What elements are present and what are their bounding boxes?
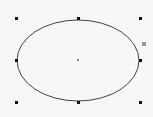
resize-handle-middle-left[interactable] [15, 59, 18, 62]
center-point [77, 59, 79, 61]
resize-handle-bottom-right[interactable] [139, 101, 142, 104]
resize-handle-bottom-center[interactable] [77, 101, 80, 104]
resize-handle-middle-right[interactable] [139, 59, 142, 62]
resize-handle-bottom-left[interactable] [15, 101, 18, 104]
resize-handle-top-right[interactable] [139, 17, 142, 20]
resize-handle-top-left[interactable] [15, 17, 18, 20]
rotate-handle-icon[interactable] [142, 42, 146, 46]
drawing-canvas[interactable] [0, 0, 153, 117]
resize-handle-top-center[interactable] [77, 17, 80, 20]
